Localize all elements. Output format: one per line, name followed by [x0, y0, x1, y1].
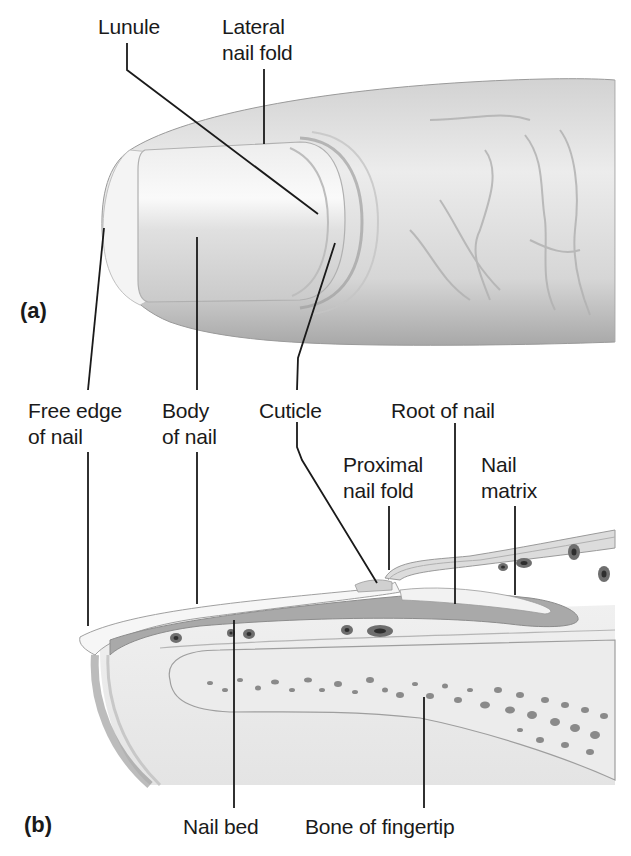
label-free-edge-of-nail: Free edge of nail [28, 398, 122, 450]
label-nail-matrix: Nail matrix [481, 452, 537, 504]
panel-label-b: (b) [24, 812, 52, 838]
label-body-of-nail: Body of nail [162, 398, 217, 450]
label-proximal-line2: nail fold [343, 478, 423, 504]
label-proximal-line1: Proximal [343, 452, 423, 478]
label-nail-matrix-line2: matrix [481, 478, 537, 504]
label-cuticle: Cuticle [259, 398, 322, 424]
label-nail-bed: Nail bed [183, 814, 258, 840]
label-bone-of-fingertip: Bone of fingertip [305, 814, 455, 840]
finger-exterior [102, 76, 620, 348]
label-body-line1: Body [162, 398, 217, 424]
label-free-edge-line1: Free edge [28, 398, 122, 424]
label-lunule: Lunule [98, 14, 160, 40]
label-proximal-nail-fold: Proximal nail fold [343, 452, 423, 504]
label-root-of-nail: Root of nail [391, 398, 495, 424]
nail-cross-section [80, 520, 631, 790]
label-lateral-nail-fold-line2: nail fold [222, 40, 293, 66]
label-free-edge-line2: of nail [28, 424, 122, 450]
label-nail-matrix-line1: Nail [481, 452, 537, 478]
label-body-line2: of nail [162, 424, 217, 450]
label-lateral-nail-fold-line1: Lateral [222, 14, 293, 40]
panel-label-a: (a) [20, 298, 47, 324]
label-lateral-nail-fold: Lateral nail fold [222, 14, 293, 66]
